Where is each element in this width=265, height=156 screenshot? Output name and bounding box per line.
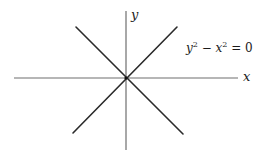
y-axis-label: y (130, 7, 139, 22)
equation-label: y2 − x2 = 0 (185, 40, 253, 55)
diagram-figure: x y y2 − x2 = 0 (0, 0, 265, 156)
curve-line-y-equals-neg-x (76, 27, 183, 134)
origin-point (124, 76, 127, 79)
equation-rhs: = 0 (227, 41, 252, 55)
x-axis-label: x (243, 69, 251, 84)
equation-minus: − (198, 41, 216, 55)
curve-line-y-equals-x (73, 27, 177, 133)
